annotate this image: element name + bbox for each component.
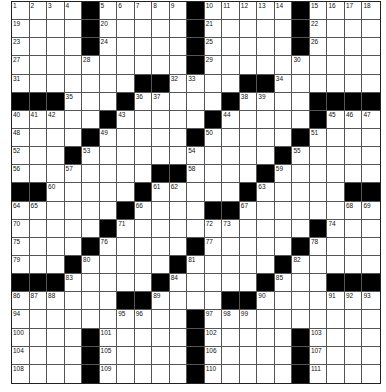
grid-cell[interactable]: [100, 56, 118, 74]
grid-cell[interactable]: 101: [100, 329, 118, 347]
grid-cell[interactable]: [47, 310, 65, 328]
grid-cell[interactable]: 3: [47, 2, 65, 20]
grid-cell[interactable]: [47, 365, 65, 383]
grid-cell[interactable]: 37: [152, 93, 170, 111]
grid-cell[interactable]: [100, 75, 118, 93]
grid-cell[interactable]: 45: [327, 111, 345, 129]
grid-cell[interactable]: 84: [170, 274, 188, 292]
grid-cell[interactable]: [222, 20, 240, 38]
grid-cell[interactable]: [187, 202, 205, 220]
grid-cell[interactable]: [222, 238, 240, 256]
grid-cell[interactable]: 9: [170, 2, 188, 20]
grid-cell[interactable]: [117, 238, 135, 256]
grid-cell[interactable]: [362, 329, 380, 347]
grid-cell[interactable]: 86: [12, 292, 30, 310]
grid-cell[interactable]: [30, 310, 48, 328]
grid-cell[interactable]: [170, 238, 188, 256]
grid-cell[interactable]: [275, 38, 293, 56]
grid-cell[interactable]: [275, 56, 293, 74]
grid-cell[interactable]: [117, 38, 135, 56]
grid-cell[interactable]: 48: [12, 129, 30, 147]
grid-cell[interactable]: [222, 129, 240, 147]
grid-cell[interactable]: [292, 183, 310, 201]
grid-cell[interactable]: 36: [135, 93, 153, 111]
grid-cell[interactable]: [152, 38, 170, 56]
grid-cell[interactable]: [240, 165, 258, 183]
grid-cell[interactable]: [222, 347, 240, 365]
grid-cell[interactable]: [222, 38, 240, 56]
grid-cell[interactable]: [292, 165, 310, 183]
grid-cell[interactable]: [327, 347, 345, 365]
grid-cell[interactable]: [82, 202, 100, 220]
grid-cell[interactable]: 41: [30, 111, 48, 129]
grid-cell[interactable]: [292, 274, 310, 292]
grid-cell[interactable]: [257, 329, 275, 347]
grid-cell[interactable]: 49: [100, 129, 118, 147]
grid-cell[interactable]: 29: [205, 56, 223, 74]
grid-cell[interactable]: [30, 38, 48, 56]
grid-cell[interactable]: [292, 93, 310, 111]
grid-cell[interactable]: [135, 56, 153, 74]
grid-cell[interactable]: [135, 274, 153, 292]
grid-cell[interactable]: [205, 93, 223, 111]
grid-cell[interactable]: 20: [100, 20, 118, 38]
grid-cell[interactable]: [170, 129, 188, 147]
grid-cell[interactable]: [152, 329, 170, 347]
grid-cell[interactable]: 68: [345, 202, 363, 220]
grid-cell[interactable]: [275, 93, 293, 111]
grid-cell[interactable]: [170, 111, 188, 129]
grid-cell[interactable]: [135, 238, 153, 256]
grid-cell[interactable]: [117, 56, 135, 74]
grid-cell[interactable]: 10: [205, 2, 223, 20]
grid-cell[interactable]: [327, 129, 345, 147]
grid-cell[interactable]: [170, 365, 188, 383]
grid-cell[interactable]: [310, 56, 328, 74]
grid-cell[interactable]: [345, 310, 363, 328]
grid-cell[interactable]: [152, 310, 170, 328]
grid-cell[interactable]: 90: [257, 292, 275, 310]
grid-cell[interactable]: [117, 347, 135, 365]
grid-cell[interactable]: [222, 147, 240, 165]
grid-cell[interactable]: 65: [30, 202, 48, 220]
grid-cell[interactable]: [170, 38, 188, 56]
grid-cell[interactable]: [82, 292, 100, 310]
grid-cell[interactable]: [47, 38, 65, 56]
grid-cell[interactable]: [152, 202, 170, 220]
grid-cell[interactable]: 88: [47, 292, 65, 310]
grid-cell[interactable]: 76: [100, 238, 118, 256]
grid-cell[interactable]: 42: [47, 111, 65, 129]
grid-cell[interactable]: [152, 111, 170, 129]
grid-cell[interactable]: [362, 129, 380, 147]
grid-cell[interactable]: 64: [12, 202, 30, 220]
grid-cell[interactable]: 109: [100, 365, 118, 383]
grid-cell[interactable]: [135, 256, 153, 274]
grid-cell[interactable]: [65, 111, 83, 129]
grid-cell[interactable]: [327, 147, 345, 165]
grid-cell[interactable]: [135, 165, 153, 183]
grid-cell[interactable]: [47, 20, 65, 38]
grid-cell[interactable]: [327, 365, 345, 383]
grid-cell[interactable]: [327, 75, 345, 93]
grid-cell[interactable]: [292, 220, 310, 238]
grid-cell[interactable]: [152, 147, 170, 165]
grid-cell[interactable]: [100, 165, 118, 183]
grid-cell[interactable]: [257, 56, 275, 74]
grid-cell[interactable]: [170, 347, 188, 365]
grid-cell[interactable]: [257, 111, 275, 129]
grid-cell[interactable]: [205, 183, 223, 201]
grid-cell[interactable]: [100, 202, 118, 220]
grid-cell[interactable]: [100, 183, 118, 201]
grid-cell[interactable]: [257, 238, 275, 256]
grid-cell[interactable]: [222, 365, 240, 383]
grid-cell[interactable]: 102: [205, 329, 223, 347]
grid-cell[interactable]: 40: [12, 111, 30, 129]
grid-cell[interactable]: [47, 329, 65, 347]
grid-cell[interactable]: [345, 238, 363, 256]
grid-cell[interactable]: [170, 329, 188, 347]
grid-cell[interactable]: [47, 165, 65, 183]
grid-cell[interactable]: [47, 147, 65, 165]
grid-cell[interactable]: 44: [222, 111, 240, 129]
grid-cell[interactable]: 24: [100, 38, 118, 56]
grid-cell[interactable]: [47, 129, 65, 147]
grid-cell[interactable]: [152, 238, 170, 256]
